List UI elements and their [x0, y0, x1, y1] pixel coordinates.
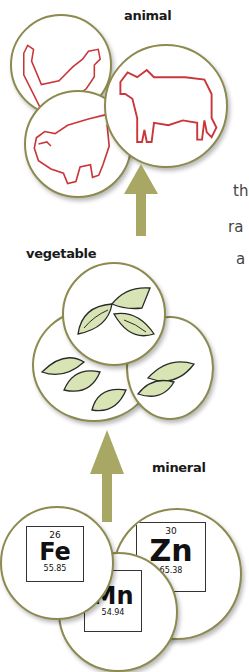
text-fragment: th	[233, 182, 248, 200]
text-fragment: ra	[228, 218, 243, 236]
cow-circle	[104, 44, 228, 168]
text-fragment: a	[236, 250, 245, 268]
iron-circle: 26 Fe 55.85	[0, 506, 114, 620]
mineral-label: mineral	[152, 460, 206, 475]
element-tile-fe: 26 Fe 55.85	[26, 526, 84, 582]
cow-icon	[106, 46, 226, 166]
leaves-icon	[64, 264, 164, 364]
up-arrow-vegetable-to-animal	[124, 164, 158, 236]
leaves-circle-top	[62, 262, 166, 366]
element-symbol: Fe	[27, 540, 83, 564]
animal-label: animal	[124, 8, 171, 23]
up-arrow-mineral-to-vegetable	[90, 430, 124, 522]
vegetable-label: vegetable	[26, 246, 96, 261]
atomic-mass: 55.85	[27, 564, 83, 574]
